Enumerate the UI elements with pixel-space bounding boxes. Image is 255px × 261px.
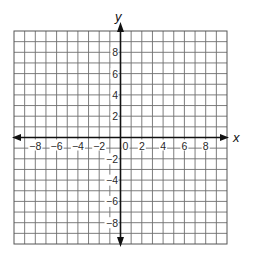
y-tick-label: −2 xyxy=(106,153,118,165)
x-tick-label: 2 xyxy=(139,140,145,152)
y-tick-label: 6 xyxy=(112,68,118,80)
x-tick-label: −8 xyxy=(29,140,41,152)
x-axis-left-arrow-icon xyxy=(12,134,21,141)
y-tick-label: 2 xyxy=(112,110,118,122)
x-tick-label: −4 xyxy=(72,140,84,152)
x-axis-tick-labels: −8−6−4−202468 xyxy=(28,140,209,152)
y-tick-label: 4 xyxy=(112,89,118,101)
x-axis-label: x xyxy=(232,130,240,145)
y-tick-label: 8 xyxy=(112,46,118,58)
y-tick-label: −4 xyxy=(106,174,118,186)
x-axis-right-arrow-icon xyxy=(220,134,229,141)
x-tick-label: 8 xyxy=(203,140,209,152)
x-tick-label: −6 xyxy=(51,140,63,152)
y-axis-label: y xyxy=(114,9,123,24)
x-tick-label: −2 xyxy=(93,140,105,152)
y-axis-down-arrow-icon xyxy=(117,237,124,247)
x-tick-label: 4 xyxy=(160,140,166,152)
y-tick-label: −8 xyxy=(106,217,118,229)
coordinate-plane: −8−6−4−202468 8642−2−4−6−8 x y xyxy=(0,0,255,261)
y-tick-label: −6 xyxy=(106,195,118,207)
x-tick-label: 6 xyxy=(181,140,187,152)
x-tick-label: 0 xyxy=(123,140,129,152)
